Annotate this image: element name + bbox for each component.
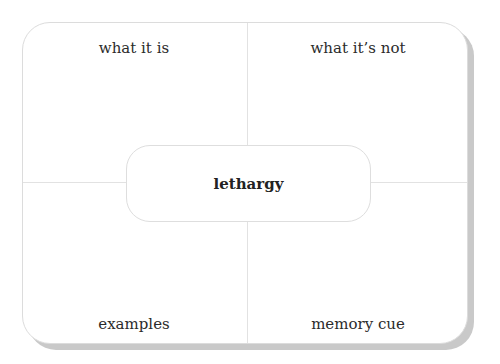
quadrant-what-it-is: what it is: [23, 39, 245, 57]
quadrant-examples: examples: [23, 315, 245, 333]
quadrant-what-its-not: what it’s not: [247, 39, 468, 57]
center-term: lethargy: [214, 175, 284, 193]
center-term-box: lethargy: [126, 145, 371, 222]
quadrant-memory-cue: memory cue: [247, 315, 468, 333]
frayer-card: what it is what it’s not examples memory…: [22, 22, 468, 344]
